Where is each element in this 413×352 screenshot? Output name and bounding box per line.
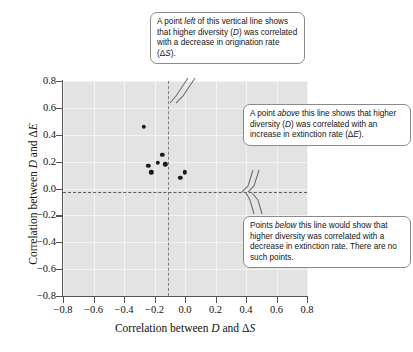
callout-mid-l2b: ) was bbox=[291, 120, 311, 129]
callout-top-l1a: A point bbox=[157, 17, 184, 26]
callout-mid-l4a: in extinction rate (Δ bbox=[283, 130, 353, 139]
callout-origination-rate: A point left of this vertical line shows… bbox=[150, 12, 305, 64]
callout-top-l1em: left bbox=[184, 17, 195, 26]
callout-bot-l1em: below bbox=[275, 221, 296, 230]
callout-bot-l1b: this line would bbox=[296, 221, 350, 230]
callout-bot-l4: decrease in extinction rate. bbox=[250, 242, 348, 251]
callout-mid-l1a: A point bbox=[250, 109, 277, 118]
callout-extinction-decrease: Points below this line would show that h… bbox=[243, 216, 411, 268]
callout-extinction-increase: A point above this line shows that highe… bbox=[243, 104, 411, 146]
callout-top-l4b: ). bbox=[171, 49, 176, 58]
callout-mid-l1b: this line shows bbox=[300, 109, 356, 118]
callout-mid-l4b: ). bbox=[359, 130, 364, 139]
callout-mid-l1em: above bbox=[277, 109, 299, 118]
callout-bot-l3: was correlated with a bbox=[307, 232, 384, 241]
chart-figure: 0.80.60.40.20.0−0.2−0.4−0.6−0.8 −0.8−0.6… bbox=[0, 0, 413, 352]
callout-top-l2b: ) bbox=[239, 28, 242, 37]
callout-top-l1b: of this vertical line bbox=[195, 17, 262, 26]
callout-bot-l1a: Points bbox=[250, 221, 275, 230]
